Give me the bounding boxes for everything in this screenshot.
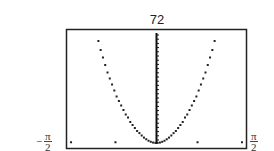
data-point [189, 109, 191, 111]
data-point [152, 142, 154, 144]
xmax-label: π 2 [250, 131, 258, 151]
xmin-denominator: 2 [44, 142, 52, 151]
data-point [132, 124, 134, 126]
data-point [205, 72, 207, 74]
data-point [122, 109, 124, 111]
data-point [211, 49, 213, 51]
data-point [198, 90, 200, 92]
data-point [141, 135, 143, 137]
data-point [134, 127, 136, 129]
data-point [173, 132, 175, 134]
data-point [70, 141, 72, 143]
data-point [109, 78, 111, 80]
data-point [182, 121, 184, 123]
data-point [145, 138, 147, 140]
minus-sign: − [36, 136, 42, 146]
data-point [170, 135, 172, 137]
data-point [159, 142, 161, 144]
data-point [179, 124, 181, 126]
data-point [106, 72, 108, 74]
data-point [129, 121, 131, 123]
xmin-label: − π 2 [44, 131, 52, 151]
xmax-denominator: 2 [250, 142, 258, 151]
data-point [154, 142, 156, 144]
data-point [195, 96, 197, 98]
data-point [197, 141, 199, 143]
data-point [202, 78, 204, 80]
data-point [120, 105, 122, 107]
ymax-label: 72 [145, 12, 169, 27]
data-point [207, 64, 209, 66]
data-point [138, 132, 140, 134]
data-point [161, 141, 163, 143]
data-point [186, 114, 188, 116]
data-point [166, 138, 168, 140]
data-point [241, 141, 243, 143]
data-point [177, 127, 179, 129]
data-point [118, 100, 120, 102]
y-axis [157, 33, 160, 144]
data-point [97, 40, 99, 42]
data-point [193, 100, 195, 102]
data-point [125, 114, 127, 116]
data-point [100, 49, 102, 51]
plot-area [0, 0, 274, 151]
data-point [163, 140, 165, 142]
data-point [116, 96, 118, 98]
data-point [168, 137, 170, 139]
data-point [136, 130, 138, 132]
data-point [111, 84, 113, 86]
data-point [157, 142, 159, 144]
data-point [113, 90, 115, 92]
data-point [143, 137, 145, 139]
data-point [102, 57, 104, 59]
data-point [127, 117, 129, 119]
data-point [209, 57, 211, 59]
data-point [175, 130, 177, 132]
data-point [150, 141, 152, 143]
data-point [114, 141, 116, 143]
data-point [104, 64, 106, 66]
data-point [148, 140, 150, 142]
data-point [200, 84, 202, 86]
data-point [191, 105, 193, 107]
data-point [214, 40, 216, 42]
data-point [184, 117, 186, 119]
